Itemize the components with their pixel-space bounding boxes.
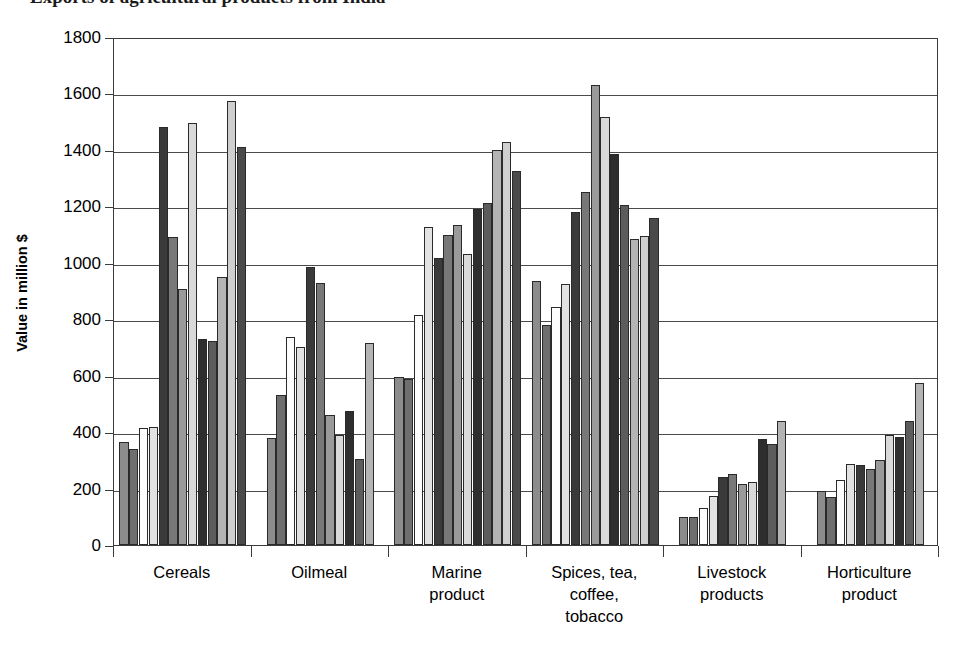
y-tick-mark xyxy=(105,207,113,208)
bar xyxy=(404,379,413,545)
bar xyxy=(915,383,924,545)
x-axis-group-tick xyxy=(663,546,664,557)
bar xyxy=(473,209,482,545)
bar xyxy=(542,325,551,545)
y-tick-label: 1600 xyxy=(31,85,101,102)
bar xyxy=(885,435,894,545)
bar xyxy=(296,347,305,545)
y-tick-label: 1000 xyxy=(31,255,101,272)
bar-series-layer xyxy=(114,39,937,545)
bar xyxy=(188,123,197,545)
bar xyxy=(483,203,492,545)
bar xyxy=(679,517,688,545)
y-tick-mark xyxy=(105,38,113,39)
bar xyxy=(276,395,285,545)
bar xyxy=(709,496,718,545)
bar xyxy=(335,435,344,545)
x-axis-group-label-line: tobacco xyxy=(513,606,677,628)
bar xyxy=(777,421,786,545)
y-tick-mark xyxy=(105,264,113,265)
bar xyxy=(826,497,835,545)
y-tick-mark xyxy=(105,377,113,378)
bar xyxy=(866,469,875,545)
bar xyxy=(119,442,128,545)
x-axis-group-label: Horticultureproduct xyxy=(788,562,952,606)
bar xyxy=(551,307,560,545)
y-tick-label: 1200 xyxy=(31,198,101,215)
bar xyxy=(198,339,207,545)
bar xyxy=(875,460,884,545)
bar xyxy=(649,218,658,545)
bar xyxy=(139,428,148,545)
bar xyxy=(512,171,521,545)
x-axis-group-tick xyxy=(801,546,802,557)
bar xyxy=(728,474,737,545)
bar xyxy=(571,212,580,545)
bar xyxy=(836,480,845,545)
y-tick-label: 400 xyxy=(31,424,101,441)
bar xyxy=(689,517,698,545)
y-tick-mark xyxy=(105,546,113,547)
y-tick-mark xyxy=(105,320,113,321)
bar xyxy=(846,464,855,545)
y-tick-mark xyxy=(105,490,113,491)
x-axis-group-tick xyxy=(938,546,939,557)
bar xyxy=(581,192,590,545)
y-tick-label: 200 xyxy=(31,481,101,498)
bar xyxy=(453,225,462,545)
bar xyxy=(895,437,904,545)
x-axis-origin-tick xyxy=(113,546,114,557)
y-tick-mark xyxy=(105,433,113,434)
bar xyxy=(532,281,541,545)
bar xyxy=(355,459,364,545)
bar xyxy=(502,142,511,545)
bar xyxy=(434,258,443,545)
y-tick-mark xyxy=(105,94,113,95)
bar xyxy=(286,337,295,545)
x-axis-group-label-line: Horticulture xyxy=(788,562,952,584)
bar xyxy=(640,236,649,545)
y-tick-label: 800 xyxy=(31,311,101,328)
bar xyxy=(620,205,629,545)
x-axis-group-label-line: product xyxy=(788,584,952,606)
bar xyxy=(610,154,619,545)
bar xyxy=(492,150,501,545)
y-tick-label: 1800 xyxy=(31,29,101,46)
y-tick-mark xyxy=(105,151,113,152)
bar xyxy=(414,315,423,545)
bar xyxy=(168,237,177,545)
bar xyxy=(217,277,226,545)
bar xyxy=(267,438,276,545)
bar xyxy=(699,508,708,545)
bar xyxy=(630,239,639,545)
plot-area xyxy=(113,38,938,546)
bar xyxy=(817,491,826,545)
bar xyxy=(237,147,246,545)
bar xyxy=(748,482,757,545)
x-axis-group-tick xyxy=(251,546,252,557)
bar xyxy=(178,289,187,545)
bar xyxy=(561,284,570,545)
bar xyxy=(149,427,158,545)
bar xyxy=(345,411,354,545)
x-axis-group-tick xyxy=(388,546,389,557)
bar xyxy=(394,377,403,545)
y-tick-label: 1400 xyxy=(31,142,101,159)
y-axis-title: Value in million $ xyxy=(14,83,30,503)
bar xyxy=(129,449,138,545)
bar xyxy=(767,444,776,545)
bar xyxy=(325,415,334,545)
bar xyxy=(463,254,472,545)
bar xyxy=(306,267,315,545)
bar xyxy=(316,283,325,545)
bar xyxy=(738,484,747,545)
y-tick-label: 0 xyxy=(31,537,101,554)
bar xyxy=(365,343,374,545)
bar xyxy=(227,101,236,545)
bar xyxy=(856,465,865,545)
bar xyxy=(600,117,609,545)
bar xyxy=(905,421,914,545)
bar xyxy=(208,341,217,545)
x-axis-group-tick xyxy=(526,546,527,557)
bar xyxy=(443,235,452,545)
